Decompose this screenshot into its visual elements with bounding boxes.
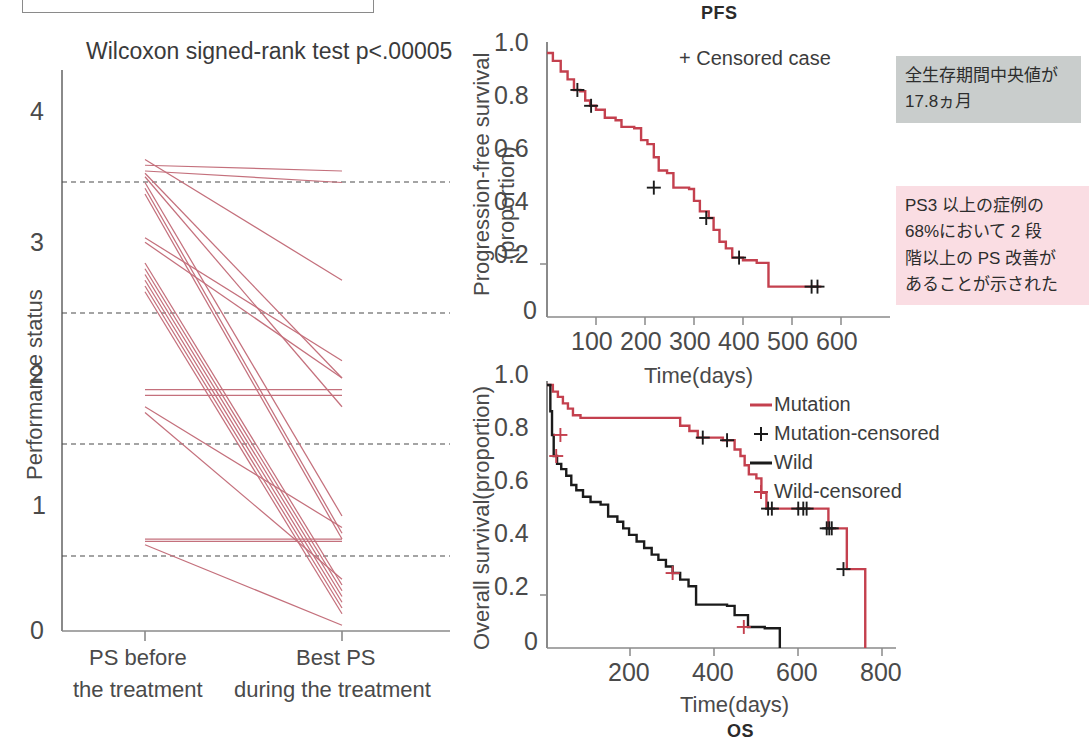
pfs-x-tick-200: 200 [620,327,662,356]
os-y-tick-0.6: 0.6 [494,466,529,495]
ps-paired-line [145,275,342,597]
ps-gridlines [62,182,450,556]
ps-y-tick-3: 3 [30,228,44,257]
ps-paired-line [145,183,342,517]
ps-paired-line [145,263,342,585]
os-x-axis-label: Time(days) [680,692,789,718]
ps-y-axis-label: Performance status [22,289,48,480]
ps-paired-line [145,194,342,539]
top-left-box-fragment [22,0,374,13]
note-ps-improvement: PS3 以上の症例の 68%において 2 段 階以上の PS 改善が あることが… [896,186,1089,305]
os-x-tick-400: 400 [692,658,734,687]
ps-paired-line [145,292,342,614]
ps-paired-lines [145,160,342,626]
figure-canvas: Wilcoxon signed-rank test p<.00005 4 3 2… [0,0,1089,738]
os-x-tick-800: 800 [860,658,902,687]
ps-paired-line [145,165,342,171]
ps-paired-line [145,173,342,378]
os-y-axis-label: Overall survival(proportion) [469,386,495,650]
pfs-x-tick-400: 400 [718,327,760,356]
ps-paired-line [145,188,342,533]
os-y-tick-0.2: 0.2 [494,572,529,601]
ps-paired-line [145,177,342,407]
plus-icon [748,483,774,501]
os-x-tick-200: 200 [608,658,650,687]
os-y-tick-1.0: 1.0 [494,360,529,389]
ps-paired-line [145,171,342,183]
os-legend-item-mutation-censored: Mutation-censored [748,419,940,448]
pfs-x-tick-600: 600 [816,327,858,356]
pfs-y-tick-1.0: 1.0 [494,28,529,57]
pfs-censored-marks [570,83,824,294]
ps-paired-line [145,545,342,626]
os-legend-label-wild-censored: Wild-censored [774,480,902,503]
ps-y-tick-0: 0 [30,616,44,645]
os-x-tick-600: 600 [776,658,818,687]
os-legend: Mutation Mutation-censored Wild Wild-cen… [748,390,940,506]
pfs-survival-curve [547,53,821,287]
os-y-tick-0.8: 0.8 [494,413,529,442]
pfs-y-axis-label-1: Progression-free survival [469,53,495,296]
pfs-x-tick-300: 300 [669,327,711,356]
pfs-legend-censored: + Censored case [679,47,831,70]
ps-paired-line [145,238,342,361]
line-icon [748,396,774,414]
os-legend-item-wild: Wild [748,448,940,477]
pfs-y-tick-0: 0 [523,296,537,325]
ps-paired-line [145,286,342,608]
os-legend-item-wild-censored: Wild-censored [748,477,940,506]
ps-x-tick-label-2-line2: during the treatment [234,677,431,703]
ps-y-tick-4: 4 [30,97,44,126]
pfs-y-tick-0.8: 0.8 [494,81,529,110]
note-median-survival: 全生存期間中央値が 17.8ヵ月 [896,56,1081,123]
os-title: OS [727,721,754,738]
ps-x-tick-label-2-line1: Best PS [296,645,375,671]
os-legend-item-mutation: Mutation [748,390,940,419]
os-y-tick-0: 0 [524,627,538,656]
ps-spaghetti-plot [0,60,470,738]
pfs-x-tick-500: 500 [767,327,809,356]
ps-x-tick-label-1-line2: the treatment [73,677,203,703]
os-legend-label-mutation-censored: Mutation-censored [774,422,940,445]
ps-x-tick-label-1-line1: PS before [89,645,187,671]
pfs-y-axis-label-2: (proportion) [494,146,520,260]
pfs-ticks [540,264,841,325]
ps-paired-line [145,413,342,580]
ps-paired-line [145,269,342,591]
ps-annotation: Wilcoxon signed-rank test p<.00005 [86,38,452,65]
pfs-x-tick-100: 100 [571,327,613,356]
os-legend-label-wild: Wild [774,451,813,474]
os-wild-curve [547,385,780,648]
os-wild-censored-marks [549,428,751,634]
plus-icon [748,425,774,443]
os-y-tick-0.4: 0.4 [494,519,529,548]
os-legend-label-mutation: Mutation [774,393,851,416]
line-icon [748,454,774,472]
ps-y-tick-1: 1 [32,491,46,520]
